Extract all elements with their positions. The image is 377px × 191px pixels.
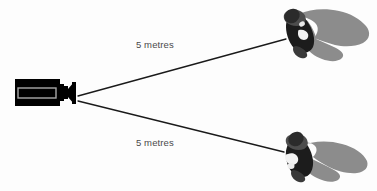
distance-label-bottom: 5 metres <box>136 137 174 148</box>
camera-body <box>15 79 60 106</box>
camera-neck-taper <box>60 84 64 101</box>
sight-line-to-bottom-subject <box>78 101 284 152</box>
bottom-subject-highlight-small <box>288 163 295 169</box>
bottom-subject-group <box>285 129 368 183</box>
diagram-canvas: 5 metres 5 metres <box>0 0 377 191</box>
camera-lens-front <box>72 82 76 104</box>
sight-lines-group <box>78 39 286 152</box>
video-camera-icon <box>15 79 76 106</box>
distance-label-top: 5 metres <box>136 39 174 50</box>
top-subject-group <box>281 6 369 61</box>
scene-illustration <box>0 0 377 191</box>
sight-line-to-top-subject <box>78 39 286 96</box>
